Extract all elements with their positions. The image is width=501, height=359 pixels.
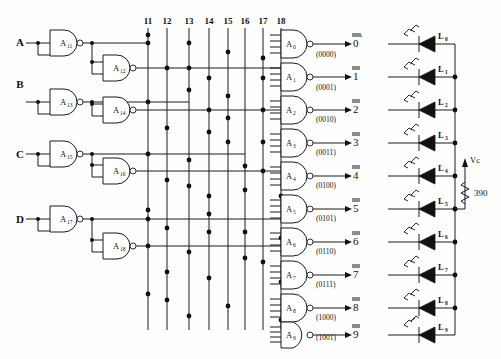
led-row-3: L 3 [388,124,457,151]
output-gate-label-1: A [286,72,293,82]
output-gate-sub-8: 8 [293,308,296,314]
led-label-5: L [438,196,444,206]
column-label-15: 15 [224,16,234,26]
gate-sub-A11: 11 [67,43,73,49]
output-gate-sub-7: 7 [293,275,296,281]
column-label-18: 18 [277,16,287,26]
gate-label-A14: A [113,105,120,115]
schematic-svg: 11 12 13 14 15 16 17 18 A B C D A 11 [0,0,501,359]
column-label-13: 13 [185,16,195,26]
output-code-7: (0111) [316,280,336,289]
led-row-5: L 5 [388,190,457,217]
input-label-A: A [16,36,24,48]
resistor-value-label: 390 [474,188,488,198]
output-row-2: A 2 2 (0010) [270,96,360,124]
led-sub-6: 6 [445,234,448,240]
led-label-1: L [438,64,444,74]
led-row-0: L 0 [388,25,455,52]
output-gate-label-9: A [286,330,293,340]
gate-label-A16: A [113,166,120,176]
output-code-9: (1001) [316,333,336,342]
input-labels: A B C D [16,36,24,225]
output-label-1: 1 [353,70,359,82]
gate-sub-A12: 12 [120,68,126,74]
led-label-7: L [438,262,444,272]
gate-label-A15: A [60,149,67,159]
output-row-6: A 6 6 (0110) [270,228,360,256]
led-sub-2: 2 [445,102,448,108]
gate-group-A12: A 12 [103,55,281,81]
output-row-7: A 7 7 (0111) [270,261,360,289]
led-sub-4: 4 [445,168,448,174]
gate-sub-A14: 14 [120,110,126,116]
output-row-3: A 3 3 (0011) [270,129,360,157]
led-label-3: L [438,130,444,140]
circuit-diagram-canvas: 11 12 13 14 15 16 17 18 A B C D A 11 [0,0,501,359]
gate-sub-A18: 18 [120,246,126,252]
gate-sub-A13: 13 [67,102,73,108]
supply-branch: Vc 390 [453,155,488,211]
led-sub-7: 7 [445,267,448,273]
led-row-7: L 7 [388,256,457,283]
gate-group-A18: A 18 [103,233,281,259]
output-label-7: 7 [353,268,359,280]
led-label-2: L [438,97,444,107]
output-code-1: (0001) [316,83,336,92]
output-row-5: A 5 5 (0101) [270,195,360,223]
output-gate-label-4: A [286,171,293,181]
column-label-17: 17 [259,16,269,26]
output-row-9: A 9 9 (1001) [270,322,360,348]
output-gate-sub-1: 1 [293,77,296,83]
gate-group-A14: A 14 [103,97,281,123]
led-label-4: L [438,163,444,173]
led-label-9: L [438,322,444,332]
output-label-9: 9 [353,328,359,340]
output-code-5: (0101) [316,214,336,223]
led-row-1: L 1 [388,58,457,85]
gate-sub-A15: 15 [67,154,73,160]
led-sub-9: 9 [445,327,448,333]
led-row-6: L 6 [388,223,457,250]
output-label-2: 2 [353,103,359,115]
led-sub-3: 3 [445,135,448,141]
output-gate-label-2: A [286,105,293,115]
input-stage-D: A 17 [26,206,281,252]
output-row-0: A 0 0 (0000) [270,30,362,59]
led-label-0: L [438,31,444,41]
led-sub-0: 0 [445,36,448,42]
led-sub-8: 8 [445,300,448,306]
gate-label-A13: A [60,97,67,107]
output-gate-sub-0: 0 [293,44,296,50]
led-label-8: L [438,295,444,305]
output-label-5: 5 [353,202,359,214]
output-code-8: (1000) [316,313,336,322]
column-labels: 11 12 13 14 15 16 17 18 [144,16,286,26]
output-gate-label-3: A [286,138,293,148]
output-gate-label-6: A [286,237,293,247]
led-row-4: L 4 [388,157,457,184]
input-label-B: B [16,78,24,90]
gate-label-A18: A [113,241,120,251]
output-row-8: A 8 8 (1000) [270,294,360,322]
output-gate-sub-4: 4 [293,176,296,182]
column-label-14: 14 [205,16,215,26]
column-label-11: 11 [144,16,153,26]
supply-label-vc: Vc [470,155,480,165]
output-label-0: 0 [353,37,359,49]
output-row-4: A 4 4 (0100) [270,162,360,190]
input-label-C: C [16,148,24,160]
gate-label-A12: A [113,63,120,73]
led-sub-5: 5 [445,201,448,207]
output-gate-label-8: A [286,303,293,313]
output-code-3: (0011) [316,148,336,157]
output-gate-sub-3: 3 [293,143,296,149]
gate-group-A16: A 16 [103,158,281,184]
output-gate-sub-9: 9 [293,335,296,341]
led-row-8: L 8 [388,289,457,316]
output-label-4: 4 [353,169,359,181]
output-gate-sub-2: 2 [293,110,296,116]
led-row-9: L 9 [388,316,455,343]
column-label-16: 16 [241,16,251,26]
output-gate-sub-6: 6 [293,242,296,248]
input-label-D: D [16,213,24,225]
